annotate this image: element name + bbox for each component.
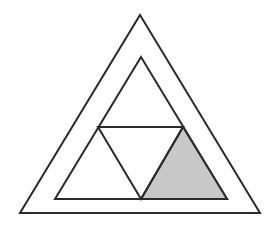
nested-triangles-figure — [0, 0, 279, 225]
figure-canvas — [0, 0, 279, 225]
figure-background — [0, 0, 279, 225]
